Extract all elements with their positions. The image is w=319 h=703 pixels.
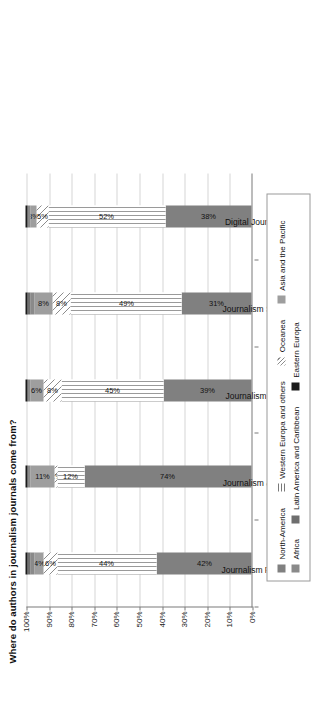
legend-item-north[interactable]: North-America: [277, 507, 286, 572]
bar-group: 42%44%6%4%74%12%1%11%39%45%8%6%31%49%8%8…: [26, 173, 251, 606]
bar-value-label: 49%: [118, 298, 133, 307]
y-tick-label: 40%: [157, 611, 166, 627]
bar-value-label: 12%: [63, 472, 78, 481]
bar-segment-ocean[interactable]: 8%: [43, 379, 61, 401]
legend-item-latin[interactable]: Latin America and Caribbean: [291, 406, 300, 522]
legend-label: Oceanea: [277, 319, 286, 351]
y-tick-label: 0%: [248, 611, 257, 623]
bar-segment-asia[interactable]: 6%: [30, 379, 44, 401]
legend-item-east[interactable]: Eastern Europa: [291, 322, 300, 391]
x-tick-mark: [254, 606, 258, 607]
y-tick-label: 50%: [135, 611, 144, 627]
bar-segment-east[interactable]: [25, 552, 27, 574]
bar-segment-east[interactable]: [25, 465, 27, 487]
stacked-bar[interactable]: 31%49%8%8%: [26, 292, 251, 314]
bar-segment-west[interactable]: 44%: [57, 552, 156, 574]
legend-swatch-east-icon: [291, 382, 299, 390]
bar-value-label: 31%: [208, 298, 223, 307]
legend-row-2: AfricaLatin America and CaribbeanEastern…: [291, 202, 300, 572]
bar-segment-ocean[interactable]: 5%: [36, 205, 47, 227]
legend-item-west[interactable]: Western Europa and others: [277, 381, 286, 492]
y-tick-mark: [162, 606, 163, 610]
stacked-bar[interactable]: 42%44%6%4%: [26, 552, 251, 574]
bar-value-label: 6%: [31, 385, 42, 394]
legend-swatch-west-icon: [277, 483, 285, 491]
y-tick-mark: [94, 606, 95, 610]
stacked-bar[interactable]: 39%45%8%6%: [26, 379, 251, 401]
y-tick-label: 100%: [22, 611, 31, 631]
y-tick-mark: [49, 606, 50, 610]
bar-segment-africa[interactable]: [30, 292, 35, 314]
bar-segment-ocean[interactable]: 6%: [43, 552, 57, 574]
legend-label: Western Europa and others: [277, 381, 286, 479]
bar-value-label: 74%: [160, 472, 175, 481]
y-tick-label: 90%: [44, 611, 53, 627]
bar-value-label: 42%: [196, 558, 211, 567]
legend-swatch-ocean-icon: [277, 357, 285, 365]
bar-value-label: 52%: [99, 212, 114, 221]
bar-segment-asia[interactable]: 8%: [34, 292, 52, 314]
bar-value-label: 3%: [30, 212, 37, 221]
bar-value-label: 45%: [105, 385, 120, 394]
y-tick-label: 60%: [112, 611, 121, 627]
legend-swatch-north-icon: [277, 564, 285, 572]
legend-swatch-latin-icon: [291, 515, 299, 523]
y-tick-label: 30%: [180, 611, 189, 627]
legend-item-asia[interactable]: Asia and the Pacific: [277, 220, 286, 303]
legend-label: North-America: [277, 507, 286, 559]
bar-value-label: 8%: [56, 298, 67, 307]
bar-column[interactable]: 74%12%1%11%: [26, 433, 251, 520]
stacked-bar[interactable]: 74%12%1%11%: [26, 465, 251, 487]
bar-column[interactable]: 42%44%6%4%: [26, 519, 251, 606]
y-tick-label: 20%: [202, 611, 211, 627]
bar-value-label: 8%: [38, 298, 49, 307]
bar-segment-west[interactable]: 52%: [48, 205, 166, 227]
bar-segment-east[interactable]: [25, 379, 27, 401]
chart-title: Where do authors in journalism journals …: [6, 419, 17, 663]
bar-column[interactable]: 31%49%8%8%: [26, 260, 251, 347]
y-tick-mark: [229, 606, 230, 610]
bar-segment-asia[interactable]: 3%: [30, 205, 37, 227]
legend-item-ocean[interactable]: Oceanea: [277, 319, 286, 364]
bar-column[interactable]: 39%45%8%6%: [26, 346, 251, 433]
legend-item-africa[interactable]: Africa: [291, 539, 300, 572]
plot-area: 0%10%20%30%40%50%60%70%80%90%100% 42%44%…: [26, 173, 252, 607]
bar-segment-asia[interactable]: 4%: [34, 552, 43, 574]
legend-label: Africa: [291, 539, 300, 559]
x-tick-mark: [254, 259, 258, 260]
bar-value-label: 8%: [47, 385, 58, 394]
bar-column[interactable]: 38%52%5%3%: [26, 173, 251, 260]
chart-figure: Where do authors in journalism journals …: [0, 0, 319, 703]
bar-segment-ocean[interactable]: 8%: [52, 292, 70, 314]
legend-label: Latin America and Caribbean: [291, 406, 300, 509]
bar-segment-west[interactable]: 12%: [57, 465, 84, 487]
y-tick-label: 80%: [67, 611, 76, 627]
legend-label: Eastern Europa: [291, 322, 300, 378]
y-tick-mark: [184, 606, 185, 610]
bar-segment-east[interactable]: [25, 205, 27, 227]
legend-row-1: North-AmericaWestern Europa and othersOc…: [277, 202, 286, 572]
y-tick-label: 10%: [225, 611, 234, 627]
y-tick-mark: [139, 606, 140, 610]
y-tick-mark: [71, 606, 72, 610]
bar-value-label: 6%: [44, 558, 55, 567]
x-tick-mark: [254, 519, 258, 520]
chart-stage: Where do authors in journalism journals …: [0, 0, 319, 703]
bar-segment-asia[interactable]: 11%: [30, 465, 55, 487]
x-tick-mark: [254, 346, 258, 347]
legend-swatch-asia-icon: [277, 295, 285, 303]
bar-segment-africa[interactable]: [30, 552, 35, 574]
bar-segment-west[interactable]: 45%: [61, 379, 163, 401]
y-tick-mark: [26, 606, 27, 610]
y-tick-label: 70%: [89, 611, 98, 627]
legend-label: Asia and the Pacific: [277, 220, 286, 290]
bar-value-label: 5%: [37, 212, 48, 221]
bar-segment-west[interactable]: 49%: [70, 292, 181, 314]
bar-value-label: 39%: [199, 385, 214, 394]
y-tick-mark: [116, 606, 117, 610]
bar-segment-east[interactable]: [25, 292, 27, 314]
legend-swatch-africa-icon: [291, 564, 299, 572]
bar-value-label: 11%: [35, 472, 49, 481]
stacked-bar[interactable]: 38%52%5%3%: [26, 205, 251, 227]
bar-value-label: 4%: [34, 558, 43, 567]
